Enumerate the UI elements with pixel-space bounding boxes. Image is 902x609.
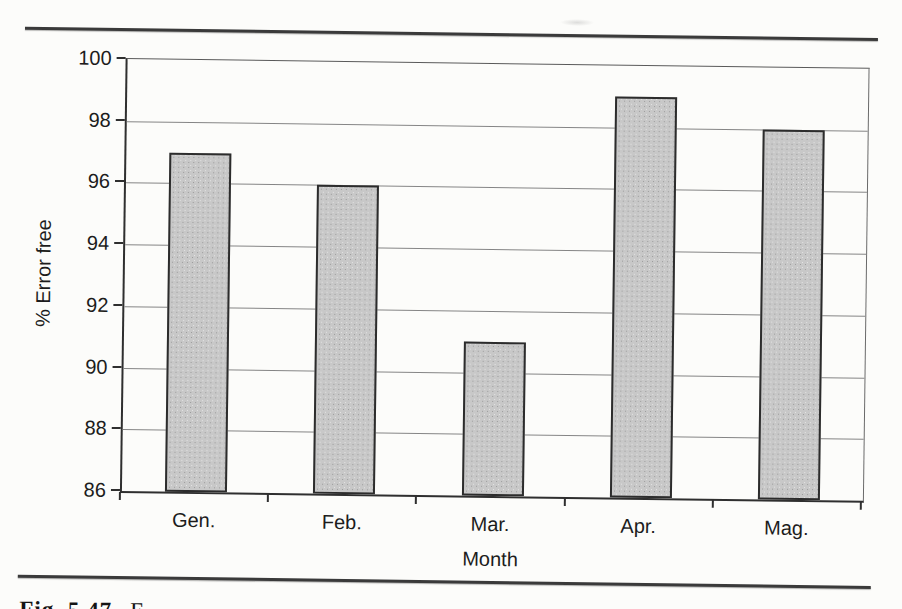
scanned-page: % Error free 86889092949698100 Gen.Feb.M… [0, 0, 902, 609]
x-tick-label-apr: Apr. [564, 514, 712, 539]
y-tick-label-100: 100 [53, 47, 111, 68]
figure-caption: Fig. 5.47E [19, 597, 144, 609]
y-tick-label-92: 92 [50, 294, 108, 315]
y-tick-mark-96 [115, 180, 124, 182]
scan-skew-wrapper: % Error free 86889092949698100 Gen.Feb.M… [0, 0, 902, 609]
y-tick-mark-92 [113, 304, 122, 306]
x-axis-title: Month [462, 548, 518, 572]
x-tick-mark-4 [712, 500, 714, 508]
x-tick-mark-2 [415, 496, 417, 504]
gridline-y-96 [126, 183, 867, 194]
y-tick-mark-88 [112, 427, 121, 429]
y-tick-label-98: 98 [53, 109, 111, 130]
x-tick-mark-5 [860, 502, 862, 510]
y-tick-label-90: 90 [49, 356, 107, 377]
bar-feb [313, 185, 379, 494]
x-tick-label-feb: Feb. [268, 510, 416, 535]
figure-number: Fig. 5.47 [19, 597, 112, 609]
gridline-y-98 [127, 121, 868, 132]
x-tick-mark-1 [267, 494, 269, 502]
caption-text-partial: E [130, 598, 144, 609]
x-tick-mark-0 [119, 492, 121, 500]
bar-chart: % Error free 86889092949698100 Gen.Feb.M… [0, 0, 902, 609]
x-tick-label-gen: Gen. [119, 508, 267, 533]
y-tick-mark-86 [111, 489, 120, 491]
y-tick-mark-100 [117, 57, 126, 59]
bar-gen [165, 152, 231, 492]
x-tick-label-mag: Mag. [712, 516, 860, 541]
y-tick-label-86: 86 [48, 479, 106, 500]
bar-mar [461, 341, 525, 496]
x-tick-mark-3 [563, 498, 565, 506]
y-tick-label-96: 96 [52, 171, 110, 192]
y-tick-label-88: 88 [49, 417, 107, 438]
bar-mag [758, 129, 825, 500]
gridline-y-94 [125, 244, 866, 255]
x-tick-label-mar: Mar. [416, 512, 564, 537]
plot-area [120, 58, 870, 503]
y-tick-mark-98 [116, 119, 125, 121]
y-axis: 86889092949698100 [0, 0, 902, 11]
y-tick-label-94: 94 [51, 232, 109, 253]
y-tick-mark-90 [113, 366, 122, 368]
bar-apr [610, 96, 677, 498]
gridline-y-92 [124, 306, 865, 317]
y-tick-mark-94 [114, 242, 123, 244]
x-axis: Gen.Feb.Mar.Apr.Mag. [0, 0, 902, 11]
